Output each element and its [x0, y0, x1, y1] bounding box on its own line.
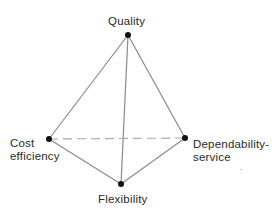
vertex-flexibility — [118, 181, 124, 187]
edge-dependability-flexibility — [121, 138, 185, 184]
label-cost-efficiency: Cost efficiency — [10, 137, 60, 163]
label-dependability-line-2: service — [193, 151, 269, 164]
label-quality: Quality — [108, 15, 145, 28]
edge-quality-dependability — [128, 35, 185, 138]
vertex-dependability — [182, 135, 188, 141]
label-dependability-line-1: Dependability- — [193, 138, 269, 151]
label-dependability-service: Dependability- service — [193, 138, 269, 164]
label-flexibility-line-1: Flexibility — [98, 193, 148, 206]
tetrahedron-diagram — [0, 0, 279, 217]
label-flexibility: Flexibility — [98, 193, 148, 206]
edge-quality-cost — [49, 35, 128, 139]
vertex-quality — [125, 32, 131, 38]
label-cost-line-2: efficiency — [10, 150, 60, 163]
edge-cost-dependability-hidden — [49, 138, 185, 139]
scan-artifact — [240, 169, 242, 170]
label-quality-line-1: Quality — [108, 15, 145, 28]
label-cost-line-1: Cost — [10, 137, 60, 150]
edge-quality-flexibility — [121, 35, 128, 184]
